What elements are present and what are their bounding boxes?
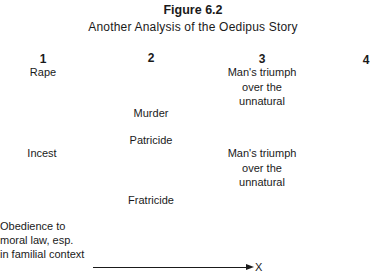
column-number-3: 3 (259, 52, 266, 66)
figure-label: Figure 6.2 (163, 3, 222, 17)
source-line: moral law, esp. (0, 233, 84, 247)
source-line: in familial context (0, 247, 84, 261)
entry-line: over the (228, 80, 297, 95)
column-2-entry-patricide: Patricide (130, 133, 173, 148)
column-1-entry-incest: Incest (27, 146, 56, 161)
axis-source-label: Obedience to moral law, esp. in familial… (0, 219, 84, 261)
column-3-entry-2: Man's triumph over the unnatural (228, 146, 297, 190)
axis-arrow-line (93, 267, 249, 268)
figure-title: Another Analysis of the Oedipus Story (88, 20, 298, 34)
axis-target-label: X (255, 260, 262, 272)
arrow-head-icon (246, 264, 254, 270)
column-2-entry-murder: Murder (134, 106, 169, 121)
column-number-4: 4 (363, 53, 370, 67)
entry-line: Man's triumph (228, 146, 297, 161)
column-number-1: 1 (40, 52, 47, 66)
entry-line: unnatural (228, 175, 297, 190)
entry-line: over the (228, 161, 297, 176)
entry-line: Man's triumph (228, 65, 297, 80)
entry-line: unnatural (228, 94, 297, 109)
source-line: Obedience to (0, 219, 84, 233)
column-number-2: 2 (148, 51, 155, 65)
column-1-entry-rape: Rape (30, 65, 56, 80)
column-2-entry-fratricide: Fratricide (128, 193, 174, 208)
column-3-entry-1: Man's triumph over the unnatural (228, 65, 297, 109)
